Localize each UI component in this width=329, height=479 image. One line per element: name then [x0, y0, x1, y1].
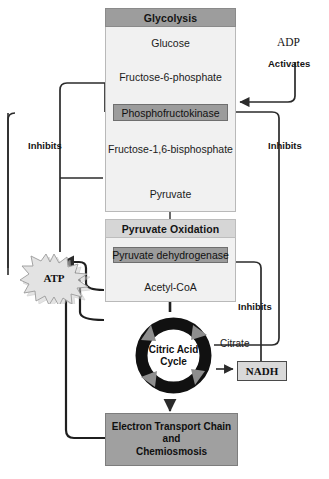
molecule-atp-label: ATP [18, 252, 90, 304]
glycolysis-header: Glycolysis [105, 8, 236, 27]
metabolite-pyruvate: Pyruvate [105, 188, 236, 200]
metabolite-acetyl-coa: Acetyl-CoA [105, 281, 236, 293]
label-citrate: Citrate [220, 338, 249, 349]
pyruvate-oxidation-header: Pyruvate Oxidation [105, 219, 236, 238]
molecule-adp: ADP [277, 36, 300, 48]
label-activates: Activates [268, 58, 310, 69]
label-inhibits-right-upper: Inhibits [268, 140, 302, 151]
etc-line-2: and [163, 433, 181, 446]
citric-acid-cycle-label: Citric Acid Cycle [131, 313, 216, 398]
line-inhibits-left-rail-top [8, 113, 15, 165]
line-atp-inhibits-pfk [60, 83, 105, 252]
line-inhibits-pdh [232, 262, 261, 296]
label-inhibits-left: Inhibits [28, 140, 62, 151]
metabolite-glucose: Glucose [105, 37, 236, 49]
arrow-etc-to-atp [52, 292, 105, 438]
cac-line-2: Cycle [160, 356, 187, 368]
label-inhibits-right-lower: Inhibits [238, 301, 272, 312]
cac-line-1: Citric Acid [149, 344, 199, 356]
metabolite-fructose-1-6-bisphosphate: Fructose-1,6-bisphosphate [99, 143, 242, 155]
etc-line-1: Electron Transport Chain [112, 421, 231, 434]
molecule-nadh: NADH [237, 361, 287, 381]
diagram-canvas: Glycolysis Glucose Fructose-6-phosphate … [0, 0, 329, 479]
enzyme-pyruvate-dehydrogenase[interactable]: Pyruvate dehydrogenase [113, 247, 228, 263]
enzyme-phosphofructokinase[interactable]: Phosphofructokinase [113, 104, 228, 121]
etc-line-3: Chemiosmosis [136, 446, 207, 459]
electron-transport-chain-box: Electron Transport Chain and Chemiosmosi… [105, 413, 238, 466]
metabolite-fructose-6-phosphate: Fructose-6-phosphate [100, 71, 241, 83]
